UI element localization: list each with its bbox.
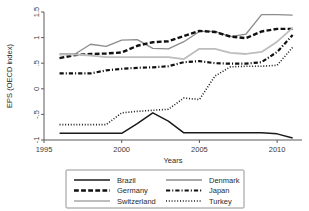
eps-oecd-index-line-chart: 1.51.50-.5-1 1995200020052010 EPS (OECD …	[0, 0, 309, 211]
y-tick-label: -1	[32, 137, 41, 144]
x-axis-title: Years	[164, 156, 183, 165]
x-tick-label: 2005	[191, 145, 208, 154]
x-axis-ticks: 1995200020052010	[36, 140, 286, 154]
x-tick-label: 2000	[113, 145, 130, 154]
x-tick-label: 2010	[269, 145, 286, 154]
legend-label-switzerland[interactable]: Switzerland	[117, 197, 156, 206]
legend-label-turkey[interactable]: Turkey	[209, 197, 232, 206]
y-tick-label: 1.5	[32, 7, 41, 17]
legend-label-brazil[interactable]: Brazil	[117, 176, 136, 185]
series-line-switzerland	[60, 28, 293, 59]
y-tick-label: .5	[32, 60, 41, 66]
series-line-japan	[60, 35, 293, 73]
chart-legend: BrazilDenmarkGermanyJapanSwitzerlandTurk…	[66, 170, 244, 208]
y-axis-title: EPS (OECD index)	[5, 44, 14, 108]
legend-label-germany[interactable]: Germany	[117, 186, 148, 195]
y-tick-label: -.5	[32, 110, 41, 119]
x-tick-label: 1995	[36, 145, 53, 154]
y-tick-label: 0	[32, 87, 41, 91]
y-tick-label: 1	[32, 36, 41, 40]
y-axis-ticks: 1.51.50-.5-1	[32, 7, 44, 144]
series-line-germany	[60, 29, 293, 58]
legend-label-denmark[interactable]: Denmark	[209, 176, 240, 185]
series-line-brazil	[60, 113, 293, 138]
data-series	[60, 15, 293, 138]
chart-page: 1.51.50-.5-1 1995200020052010 EPS (OECD …	[0, 0, 309, 211]
legend-label-japan[interactable]: Japan	[209, 186, 229, 195]
